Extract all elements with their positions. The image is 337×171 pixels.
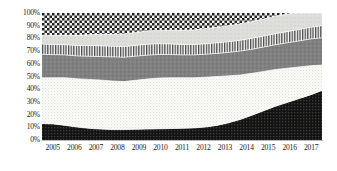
x-axis-tick-label: 2015	[257, 144, 279, 160]
x-axis-tick-label: 2005	[42, 144, 64, 160]
y-axis-tick-label: 80%	[2, 34, 40, 42]
y-axis-tick-label: 100%	[2, 9, 40, 17]
x-axis-tick-label: 2006	[64, 144, 86, 160]
y-axis-tick-label: 70%	[2, 47, 40, 55]
y-axis-tick-label: 0%	[2, 136, 40, 144]
y-axis: 100%90%80%70%60%50%40%30%20%10%0%	[0, 0, 40, 171]
x-axis-tick-label: 2008	[107, 144, 129, 160]
x-axis-line	[42, 140, 323, 141]
plot-svg	[42, 13, 322, 140]
x-axis-tick-label: 2016	[279, 144, 301, 160]
y-axis-tick-label: 50%	[2, 73, 40, 81]
y-axis-tick-label: 90%	[2, 22, 40, 30]
series-bands	[42, 13, 322, 140]
x-axis-tick-label: 2013	[214, 144, 236, 160]
x-axis-tick-label: 2007	[85, 144, 107, 160]
plot-area	[42, 13, 322, 140]
y-axis-tick-label: 30%	[2, 98, 40, 106]
y-axis-tick-label: 10%	[2, 123, 40, 131]
y-axis-tick-label: 60%	[2, 60, 40, 68]
x-axis-tick-label: 2014	[236, 144, 258, 160]
y-axis-tick-label: 40%	[2, 85, 40, 93]
x-axis-tick-label: 2017	[300, 144, 322, 160]
x-axis: 2005200620072008200920102011201220132014…	[42, 144, 322, 160]
x-axis-tick-label: 2009	[128, 144, 150, 160]
y-axis-tick-label: 20%	[2, 111, 40, 119]
x-axis-tick-label: 2012	[193, 144, 215, 160]
x-axis-tick-label: 2010	[150, 144, 172, 160]
stacked-area-chart: 100%90%80%70%60%50%40%30%20%10%0%	[0, 0, 337, 171]
x-axis-tick-label: 2011	[171, 144, 193, 160]
